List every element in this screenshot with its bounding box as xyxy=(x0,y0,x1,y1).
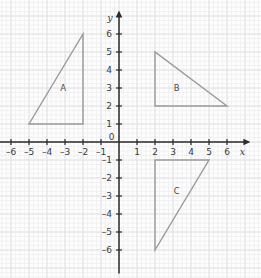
x-tick-label: 3 xyxy=(170,147,176,157)
axes xyxy=(0,11,250,274)
x-tick-label: –4 xyxy=(42,147,53,157)
x-tick-label: –3 xyxy=(60,147,70,157)
y-tick-label: 6 xyxy=(106,29,112,39)
y-tick-label: 5 xyxy=(106,47,112,57)
coordinate-plane-svg: –6–5–4–3–2–1123456654321–1–2–3–4–5–60 AB… xyxy=(0,0,261,278)
y-tick-label: 4 xyxy=(106,65,112,75)
y-tick-label: –5 xyxy=(102,227,112,237)
x-tick-label: 4 xyxy=(188,147,194,157)
x-tick-label: –5 xyxy=(24,147,34,157)
x-tick-label: 2 xyxy=(152,147,158,157)
origin-label: 0 xyxy=(109,132,115,142)
y-tick-label: 3 xyxy=(106,83,112,93)
y-tick-label: –2 xyxy=(102,173,112,183)
triangle-label-b: B xyxy=(174,83,180,93)
triangle-label-c: C xyxy=(174,186,180,196)
y-tick-label: 1 xyxy=(106,119,112,129)
x-tick-label: 5 xyxy=(206,147,212,157)
x-tick-label: –6 xyxy=(6,147,17,157)
y-tick-label: –3 xyxy=(102,191,112,201)
y-tick-label: –1 xyxy=(102,155,112,165)
y-tick-label: 2 xyxy=(106,101,112,111)
coordinate-plane-figure: –6–5–4–3–2–1123456654321–1–2–3–4–5–60 AB… xyxy=(0,0,261,278)
x-tick-label: 1 xyxy=(134,147,140,157)
y-tick-label: –4 xyxy=(102,209,113,219)
triangle-label-a: A xyxy=(60,83,66,93)
x-tick-label: –2 xyxy=(78,147,88,157)
y-axis-name: y xyxy=(106,12,113,23)
x-tick-label: 6 xyxy=(224,147,230,157)
minor-gridlines xyxy=(0,0,261,278)
x-axis-name: x xyxy=(240,146,246,157)
y-tick-label: –6 xyxy=(102,245,113,255)
